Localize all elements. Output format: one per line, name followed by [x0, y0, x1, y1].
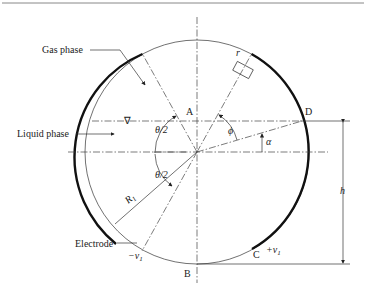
theta-half-top-label: θ/2 [155, 124, 168, 135]
r-label: r [236, 47, 240, 58]
theta-half-bottom-label: θ/2 [155, 169, 168, 180]
line-to-bottom-left [142, 152, 197, 251]
line-to-top-left [143, 54, 198, 152]
liquid-level-symbol: ∇ [123, 115, 131, 126]
electrode-cross-section-diagram: h r Gas phase Liquid phase ∇ θ/2 θ/2 ϕ α… [0, 0, 366, 294]
R1-label: R1 [122, 191, 138, 208]
alpha-label: α [266, 136, 272, 147]
line-to-top-right [197, 54, 252, 152]
electrode-right-arc [252, 54, 309, 249]
phi-label: ϕ [228, 125, 233, 136]
line-to-D [197, 121, 302, 152]
point-D-label: D [305, 106, 312, 117]
gas-phase-label: Gas phase [42, 44, 83, 55]
electrode-label: Electrode [75, 238, 114, 249]
minus-v1-label: −v1 [128, 250, 143, 263]
point-C-label: C [253, 249, 260, 260]
point-B-label: B [184, 268, 191, 279]
h-label: h [340, 185, 345, 196]
point-A-label: A [186, 106, 194, 117]
plus-v1-label: +v1 [266, 244, 281, 257]
liquid-phase-label: Liquid phase [17, 128, 69, 139]
